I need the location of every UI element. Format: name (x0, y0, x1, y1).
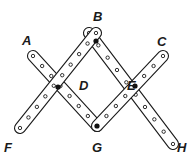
hole (124, 94, 127, 97)
hole (18, 126, 21, 129)
hole (105, 114, 108, 117)
hole (142, 74, 145, 77)
label-b: B (93, 10, 102, 23)
hole (35, 105, 38, 108)
pin-g (94, 123, 99, 128)
strip-body (25, 48, 105, 134)
hole (68, 94, 71, 97)
label-g: G (92, 141, 102, 154)
hole (77, 104, 80, 107)
hole (61, 74, 64, 77)
label-c: C (157, 35, 166, 48)
hole (69, 63, 72, 66)
hole (115, 68, 118, 71)
pin-d (55, 84, 60, 89)
hole (152, 64, 155, 67)
hole (52, 84, 55, 87)
hole (40, 64, 43, 67)
hole (143, 105, 146, 108)
hole (86, 42, 89, 45)
label-f: F (4, 141, 12, 154)
hole (114, 104, 117, 107)
hole (161, 54, 164, 57)
hole (77, 52, 80, 55)
hole (94, 31, 97, 34)
label-d: D (79, 79, 88, 92)
hole (171, 142, 174, 145)
label-h: H (177, 141, 186, 154)
hole (31, 54, 34, 57)
hole (50, 74, 53, 77)
hole (44, 95, 47, 98)
label-a: A (22, 34, 31, 47)
hole (27, 116, 30, 119)
hole (97, 44, 100, 47)
hole (86, 114, 89, 117)
hole (162, 130, 165, 133)
strip-a-g (25, 48, 105, 134)
linkage-diagram: ABCDEFGH (0, 0, 195, 158)
hole (153, 118, 156, 121)
pin-b (93, 38, 98, 43)
label-e: E (127, 79, 136, 92)
hole (106, 56, 109, 59)
